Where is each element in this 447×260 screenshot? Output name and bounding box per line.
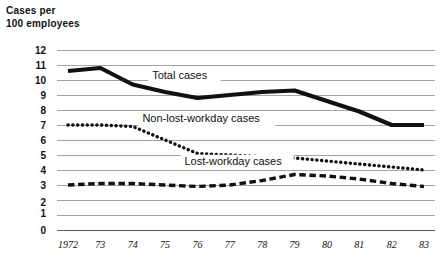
x-axis-tick-label: 82	[387, 239, 397, 250]
x-axis-tick-label: 81	[354, 239, 364, 250]
y-axis-tick-label: 3	[40, 180, 46, 191]
x-axis-tick-label: 74	[128, 239, 138, 250]
y-axis-tick-label: 4	[40, 165, 46, 176]
series-annotation-label: Non-lost-workday cases	[142, 112, 260, 124]
x-axis-tick-label: 77	[225, 239, 236, 250]
x-axis-tick-label: 78	[257, 239, 267, 250]
y-axis-tick-label: 10	[35, 75, 47, 86]
series-line	[68, 175, 424, 187]
y-axis-tick-label: 1	[40, 208, 46, 219]
x-axis-tick-label: 80	[322, 239, 332, 250]
series-annotation-label: Total cases	[152, 69, 208, 81]
x-axis-tick-label: 83	[419, 239, 429, 250]
y-axis-tick-label: 12	[35, 45, 47, 56]
y-axis-tick-label: 7	[40, 120, 46, 131]
series-annotation-label: Lost-workday cases	[185, 155, 283, 167]
y-axis-tick-label: 8	[40, 105, 46, 116]
x-axis-tick-label: 1972	[58, 239, 78, 250]
x-axis-tick-label: 76	[192, 239, 202, 250]
y-axis-tick-label: 11	[35, 60, 46, 71]
x-axis-tick-labels: 19727374757677787980818283	[58, 239, 429, 250]
y-axis-tick-labels: 1211109876543210	[35, 45, 47, 236]
chart-container: Cases per 100 employees 1211109876543210…	[0, 0, 447, 260]
y-axis-tick-label: 5	[40, 150, 46, 161]
y-axis-tick-label: 6	[40, 135, 46, 146]
y-axis-tick-label: 9	[40, 90, 46, 101]
x-axis-tick-label: 79	[290, 239, 300, 250]
line-chart-plot: 1211109876543210 19727374757677787980818…	[0, 0, 447, 260]
y-axis-tick-label: 2	[40, 197, 46, 208]
y-axis-tick-label: 0	[40, 225, 46, 236]
x-axis-tick-label: 75	[160, 239, 170, 250]
x-axis-tick-label: 73	[95, 239, 105, 250]
